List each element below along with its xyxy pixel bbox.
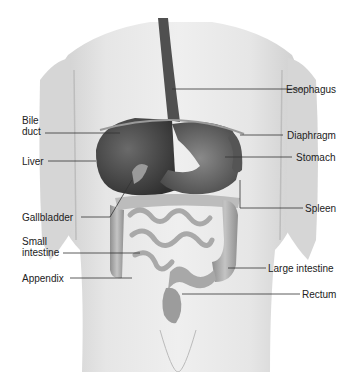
label-bile-duct-line1: Bile xyxy=(22,115,41,126)
label-small-intestine-line1: Small xyxy=(22,236,59,247)
label-rectum: Rectum xyxy=(302,289,336,300)
label-stomach: Stomach xyxy=(296,152,335,163)
label-appendix: Appendix xyxy=(22,273,64,284)
label-small-intestine-line2: intestine xyxy=(22,247,59,258)
label-liver: Liver xyxy=(22,156,44,167)
label-small-intestine: Small intestine xyxy=(22,236,59,258)
label-large-intestine: Large intestine xyxy=(268,263,334,274)
label-gallbladder: Gallbladder xyxy=(22,212,73,223)
label-bile-duct-line2: duct xyxy=(22,126,41,137)
label-esophagus: Esophagus xyxy=(286,84,336,95)
label-diaphragm: Diaphragm xyxy=(287,130,336,141)
label-spleen: Spleen xyxy=(305,203,336,214)
anatomy-illustration xyxy=(0,0,357,372)
label-bile-duct: Bile duct xyxy=(22,115,41,137)
digestive-system-diagram: Bile duct Liver Gallbladder Small intest… xyxy=(0,0,357,372)
